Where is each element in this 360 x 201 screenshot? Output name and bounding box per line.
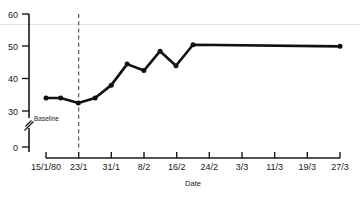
x-tick-label-6: 3/3 <box>236 162 249 172</box>
data-point <box>191 42 196 47</box>
data-point <box>109 83 114 88</box>
x-axis-title: Date <box>185 179 201 188</box>
x-tick-label-4: 16/2 <box>168 162 186 172</box>
y-tick-label-30: 30 <box>8 107 18 117</box>
data-point <box>93 96 98 101</box>
chart-container: 60 50 40 30 0 15/1/80 23/1 31/1 8/2 16/2… <box>0 0 360 201</box>
data-point <box>125 62 130 67</box>
x-tick-label-7: 11/3 <box>266 162 283 172</box>
series-line-measurement <box>46 45 340 103</box>
x-tick-label-8: 19/3 <box>299 162 317 172</box>
x-tick-label-9: 27/3 <box>331 162 349 172</box>
line-chart: 60 50 40 30 0 15/1/80 23/1 31/1 8/2 16/2… <box>0 0 360 201</box>
baseline-label: Baseline <box>34 115 59 122</box>
x-tick-label-2: 31/1 <box>103 162 121 172</box>
data-point <box>76 100 81 105</box>
x-axis-ticks <box>46 152 340 158</box>
y-tick-label-60: 60 <box>8 10 18 20</box>
x-tick-label-5: 24/2 <box>201 162 219 172</box>
data-point <box>141 68 146 73</box>
y-axis-break-icon-2 <box>26 121 32 127</box>
data-point <box>44 96 49 101</box>
series-markers-measurement <box>44 42 343 105</box>
y-tick-label-40: 40 <box>8 74 18 84</box>
data-point <box>158 49 163 54</box>
x-tick-label-1: 23/1 <box>70 162 88 172</box>
x-tick-label-0: 15/1/80 <box>31 162 61 172</box>
data-point <box>58 96 63 101</box>
x-tick-label-3: 8/2 <box>138 162 151 172</box>
y-tick-label-0: 0 <box>13 143 18 153</box>
y-tick-label-50: 50 <box>8 42 18 52</box>
data-point <box>338 44 343 49</box>
data-point <box>173 63 178 68</box>
